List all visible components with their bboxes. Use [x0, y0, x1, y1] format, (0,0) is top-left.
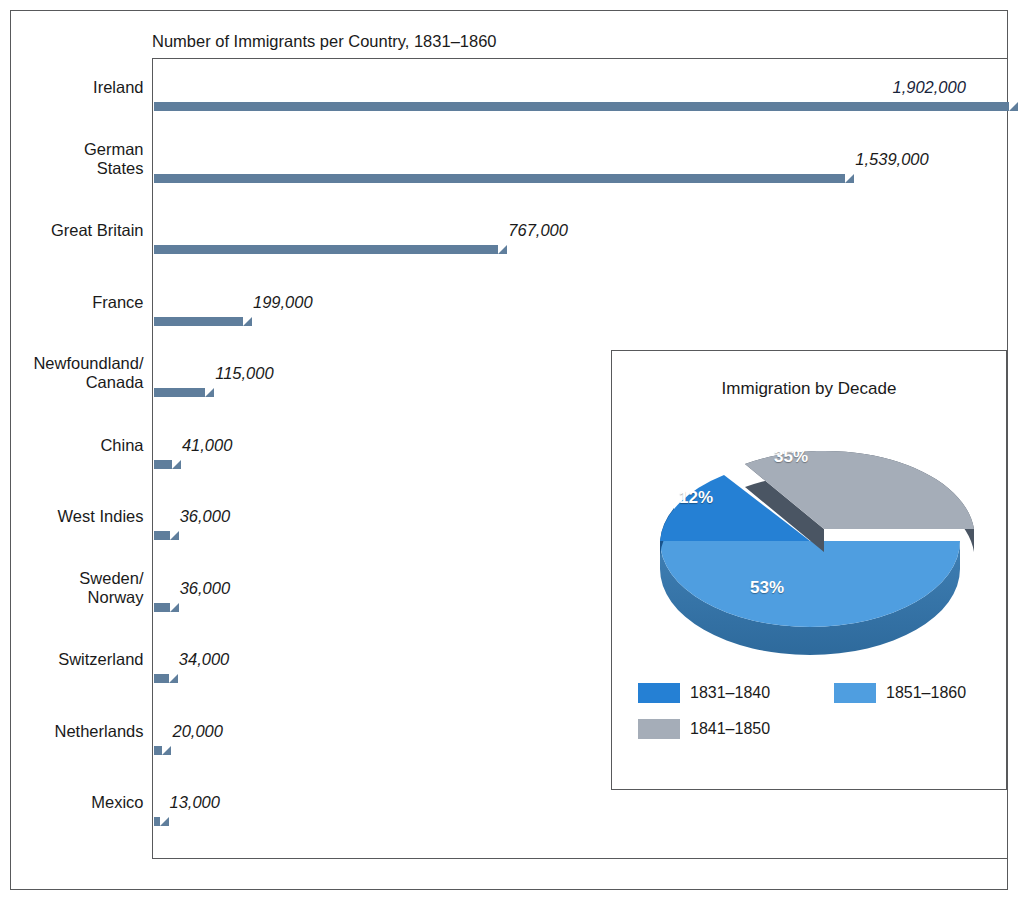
- pie-value-1841-1850: 35%: [774, 447, 808, 467]
- legend-item-1831-1840: 1831–1840: [638, 683, 770, 703]
- bar: [154, 358, 206, 388]
- bar-shadow: [154, 460, 172, 469]
- page-title: Number of Immigrants per Country, 1831–1…: [152, 32, 497, 51]
- bar: [154, 287, 243, 317]
- bar-category-label-line1: France: [0, 293, 144, 312]
- bar: [154, 72, 1009, 102]
- bar-shadow: [154, 317, 243, 326]
- pie-value-1851-1860: 53%: [750, 578, 784, 598]
- bar-shadow: [154, 388, 206, 397]
- bar: [154, 787, 160, 817]
- legend-swatch-1831-1840: [638, 683, 680, 703]
- pie-svg: [612, 403, 1008, 678]
- bar-shadow: [154, 603, 170, 612]
- bar-value-label: 1,539,000: [855, 150, 928, 169]
- pie-inset-panel: Immigration by Decade: [611, 350, 1007, 790]
- bar-category-label-line2: Canada: [0, 373, 144, 392]
- bar-category-label-line1: West Indies: [0, 507, 144, 526]
- bar-category-label-line1: China: [0, 436, 144, 455]
- legend-item-1841-1850: 1841–1850: [638, 719, 770, 739]
- bar-category-label-line1: Ireland: [0, 78, 144, 97]
- legend-label-1831-1840: 1831–1840: [690, 684, 770, 702]
- bar-category-label-line2: Norway: [0, 588, 144, 607]
- bar-shadow: [154, 245, 499, 254]
- bar-value-label: 199,000: [253, 293, 313, 312]
- bar-category-label: China: [0, 436, 144, 455]
- legend-label-1841-1850: 1841–1850: [690, 720, 770, 738]
- bar: [154, 644, 169, 674]
- bar-category-label-line2: States: [0, 159, 144, 178]
- bar: [154, 215, 499, 245]
- bar-shadow: [154, 817, 160, 826]
- bar-shadow: [154, 174, 846, 183]
- bar-value-label: 115,000: [215, 364, 273, 383]
- bar-value-label: 13,000: [170, 793, 220, 812]
- bar-category-label: Netherlands: [0, 722, 144, 741]
- bar-category-label-line1: Newfoundland/: [0, 354, 144, 373]
- bar-value-label: 36,000: [180, 579, 230, 598]
- bar-category-label-line1: Netherlands: [0, 722, 144, 741]
- bar-category-label-line1: Mexico: [0, 793, 144, 812]
- bar-category-label: Great Britain: [0, 221, 144, 240]
- bar-category-label-line1: Switzerland: [0, 650, 144, 669]
- bar-value-label: 34,000: [179, 650, 229, 669]
- legend-item-1851-1860: 1851–1860: [834, 683, 966, 703]
- bar: [154, 144, 846, 174]
- legend-swatch-1851-1860: [834, 683, 876, 703]
- bar-category-label: GermanStates: [0, 140, 144, 178]
- bar-category-label: Sweden/Norway: [0, 569, 144, 607]
- pie-chart: 35% 12% 53%: [612, 403, 1008, 678]
- bar-shadow: [154, 531, 170, 540]
- legend-swatch-1841-1850: [638, 719, 680, 739]
- bar-category-label: Ireland: [0, 78, 144, 97]
- bar-value-label: 767,000: [508, 221, 568, 240]
- bar-category-label: Newfoundland/Canada: [0, 354, 144, 392]
- bar-value-label: 36,000: [180, 507, 230, 526]
- bar: [154, 716, 163, 746]
- immigration-figure: Number of Immigrants per Country, 1831–1…: [0, 0, 1018, 910]
- bar: [154, 573, 170, 603]
- pie-chart-title: Immigration by Decade: [612, 379, 1006, 399]
- pie-value-1831-1840: 12%: [679, 488, 713, 508]
- bar-category-label: Mexico: [0, 793, 144, 812]
- bar: [154, 430, 172, 460]
- bar-value-label: 20,000: [172, 722, 222, 741]
- bar-category-label: France: [0, 293, 144, 312]
- bar-value-label: 1,902,000: [893, 78, 966, 97]
- bar: [154, 501, 170, 531]
- bar-shadow: [154, 746, 163, 755]
- bar-category-label-line1: Great Britain: [0, 221, 144, 240]
- bar-category-label-line1: Sweden/: [0, 569, 144, 588]
- bar-category-label: Switzerland: [0, 650, 144, 669]
- bar-category-label: West Indies: [0, 507, 144, 526]
- bar-shadow: [154, 102, 1009, 111]
- legend-label-1851-1860: 1851–1860: [886, 684, 966, 702]
- bar-value-label: 41,000: [182, 436, 232, 455]
- bar-shadow: [154, 674, 169, 683]
- bar-category-label-line1: German: [0, 140, 144, 159]
